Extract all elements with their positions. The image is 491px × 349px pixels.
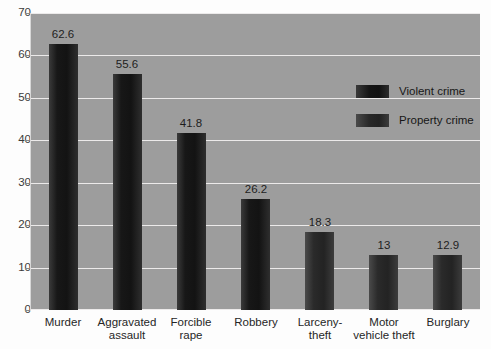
- y-axis: 010203040506070: [0, 0, 31, 349]
- gridline-40: [31, 140, 480, 141]
- bar-value-label: 41.8: [161, 118, 221, 130]
- plot-area: 62.655.641.826.218.31312.9 Violent crime…: [31, 13, 480, 310]
- bar-murder: [49, 44, 78, 310]
- legend-swatch-icon-violent: [356, 85, 389, 98]
- bar-value-label: 62.6: [33, 29, 93, 41]
- bar-aggravated-assault: [113, 74, 142, 310]
- bar-value-label: 12.9: [418, 240, 478, 252]
- gridline-70: [31, 13, 480, 14]
- bar-forcible-rape: [177, 133, 206, 310]
- legend-label: Violent crime: [399, 83, 465, 100]
- legend-label: Property crime: [399, 112, 474, 129]
- bar-value-label: 55.6: [97, 59, 157, 71]
- bar-value-label: 26.2: [226, 184, 286, 196]
- x-axis-label-burglary: Burglary: [408, 316, 488, 329]
- gridline-60: [31, 55, 480, 56]
- legend-swatch-icon-property: [356, 114, 389, 127]
- chart-title: [0, 0, 491, 7]
- bar-larceny-theft: [305, 232, 334, 310]
- bar-robbery: [241, 199, 270, 310]
- bar-burglary: [433, 255, 462, 310]
- bar-motor-vehicle-theft: [369, 255, 398, 310]
- bar-chart: 010203040506070 62.655.641.826.218.31312…: [0, 0, 491, 349]
- bar-value-label: 18.3: [290, 217, 350, 229]
- bar-value-label: 13: [354, 240, 414, 252]
